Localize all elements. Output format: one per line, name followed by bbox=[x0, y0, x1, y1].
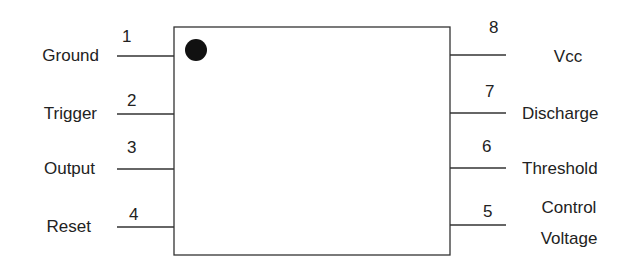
right-pin-8: 8 Vcc bbox=[450, 18, 583, 66]
left-pin-3: 3 Output bbox=[44, 138, 174, 178]
ic-body bbox=[174, 27, 450, 255]
left-pin-2: 2 Trigger bbox=[44, 91, 174, 123]
pin-label: Discharge bbox=[522, 104, 599, 123]
pin-number: 4 bbox=[129, 205, 138, 224]
right-pin-7: 7 Discharge bbox=[450, 82, 599, 123]
pinout-diagram: 1 Ground 2 Trigger 3 Output 4 Reset 8 Vc… bbox=[0, 0, 637, 278]
right-pin-5: 5 Control Voltage bbox=[450, 198, 597, 248]
pin-number: 8 bbox=[489, 18, 498, 37]
pin-label-line2: Voltage bbox=[541, 229, 598, 248]
pin1-marker-dot bbox=[185, 39, 207, 61]
pin-number: 3 bbox=[127, 138, 136, 157]
left-pin-4: 4 Reset bbox=[47, 205, 174, 236]
pin-label: Reset bbox=[47, 217, 92, 236]
left-pin-1: 1 Ground bbox=[42, 27, 174, 65]
pin-number: 1 bbox=[122, 27, 131, 46]
pin-label: Trigger bbox=[44, 104, 98, 123]
pin-label: Output bbox=[44, 159, 95, 178]
pin-number: 5 bbox=[483, 202, 492, 221]
pin-label: Vcc bbox=[554, 47, 583, 66]
pin-label: Control bbox=[542, 198, 597, 217]
pin-number: 6 bbox=[482, 137, 491, 156]
pin-number: 2 bbox=[127, 91, 136, 110]
right-pin-6: 6 Threshold bbox=[450, 137, 598, 178]
pin-number: 7 bbox=[485, 82, 494, 101]
pin-label: Threshold bbox=[522, 159, 598, 178]
pin-label: Ground bbox=[42, 46, 99, 65]
